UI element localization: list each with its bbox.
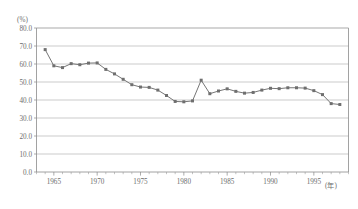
y-tick-label: 50.0 <box>19 79 32 87</box>
data-point-marker <box>130 83 133 86</box>
x-tick-label: 1990 <box>263 178 278 186</box>
data-point-marker <box>174 100 177 103</box>
data-point-marker <box>191 99 194 102</box>
data-point-marker <box>87 62 90 65</box>
y-axis-unit-label: (%) <box>17 16 28 24</box>
data-point-marker <box>200 79 203 82</box>
data-point-marker <box>278 87 281 90</box>
data-point-marker <box>122 78 125 81</box>
x-tick-label: 1980 <box>177 178 192 186</box>
x-tick-label: 1970 <box>90 178 105 186</box>
data-point-marker <box>312 89 315 92</box>
data-point-marker <box>70 62 73 65</box>
x-tick-label: 1965 <box>47 178 62 186</box>
data-point-marker <box>61 66 64 69</box>
data-point-marker <box>139 86 142 89</box>
y-tick-label: 30.0 <box>19 115 32 123</box>
data-point-marker <box>148 86 151 89</box>
data-point-marker <box>78 63 81 66</box>
data-point-marker <box>52 64 55 67</box>
data-point-marker <box>165 94 168 97</box>
data-point-marker <box>104 68 107 71</box>
data-point-marker <box>182 100 185 103</box>
data-point-marker <box>286 86 289 89</box>
data-point-marker <box>226 87 229 90</box>
x-tick-label: 1975 <box>133 178 148 186</box>
y-tick-label: 40.0 <box>19 97 32 105</box>
x-tick-label: 1985 <box>220 178 235 186</box>
x-axis-unit-label: (年) <box>325 181 337 190</box>
data-point-marker <box>156 89 159 92</box>
y-tick-label: 0.0 <box>23 169 32 177</box>
data-point-marker <box>338 103 341 106</box>
y-tick-label: 10.0 <box>19 151 32 159</box>
data-point-marker <box>304 87 307 90</box>
data-point-marker <box>295 86 298 89</box>
data-point-marker <box>269 87 272 90</box>
line-chart: 80.070.060.050.040.030.020.010.00.0 1965… <box>0 0 358 209</box>
y-tick-label: 70.0 <box>19 43 32 51</box>
chart-container: 80.070.060.050.040.030.020.010.00.0 1965… <box>0 0 358 209</box>
data-point-marker <box>260 89 263 92</box>
data-point-marker <box>44 48 47 51</box>
data-point-marker <box>113 72 116 75</box>
y-axis-tick-labels: 80.070.060.050.040.030.020.010.00.0 <box>19 25 32 177</box>
data-point-marker <box>321 93 324 96</box>
y-tick-label: 80.0 <box>19 25 32 33</box>
data-point-marker <box>330 102 333 105</box>
data-point-marker <box>234 90 237 93</box>
x-tick-label: 1995 <box>307 178 322 186</box>
data-point-marker <box>208 92 211 95</box>
y-tick-label: 60.0 <box>19 61 32 69</box>
data-point-marker <box>96 61 99 64</box>
data-point-marker <box>243 92 246 95</box>
data-point-marker <box>252 91 255 94</box>
y-tick-label: 20.0 <box>19 133 32 141</box>
data-point-marker <box>217 90 220 93</box>
